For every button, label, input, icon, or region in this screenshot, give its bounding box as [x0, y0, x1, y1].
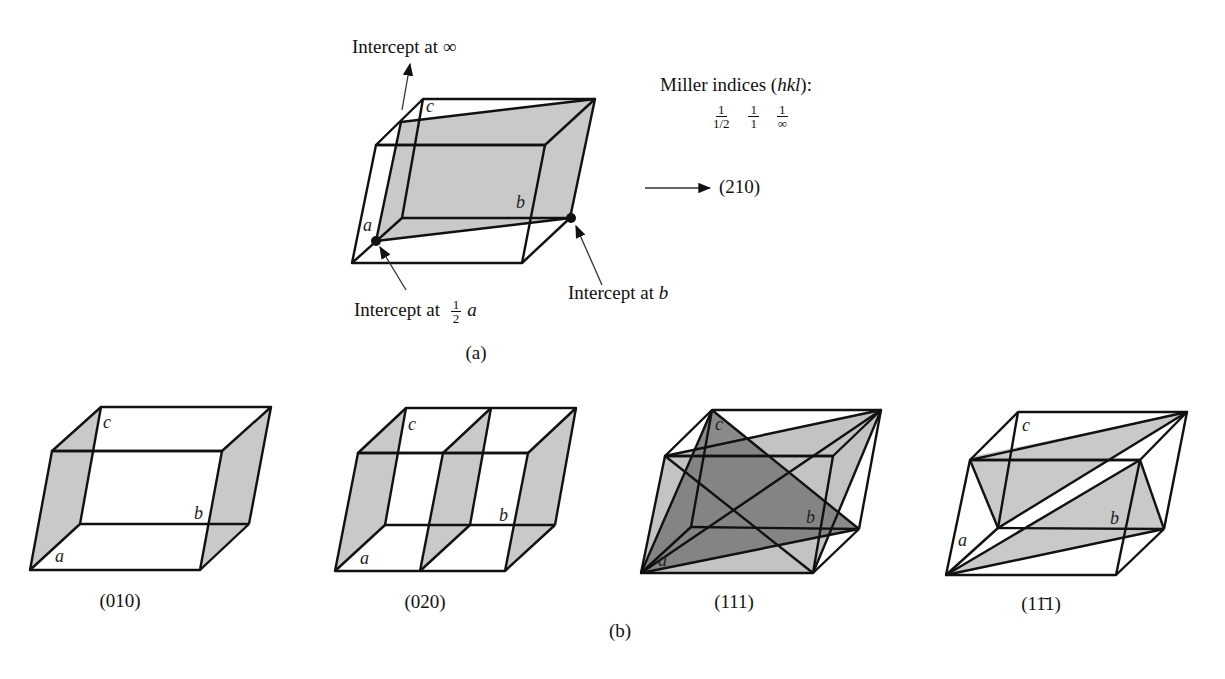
intercept-a-prefix: Intercept at: [354, 299, 440, 320]
intercept-b-axis: b: [659, 282, 669, 303]
cell-020-axis-c: c: [408, 414, 416, 435]
intercept-b-prefix: Intercept at: [568, 282, 654, 303]
unit-cell-020: [335, 408, 576, 571]
cell-11bar1-axis-b: b: [1110, 508, 1119, 529]
unit-cell-11bar1: [946, 412, 1187, 575]
unit-cell-111: [641, 410, 881, 573]
fraction-k-num: 1: [748, 103, 759, 117]
fraction-k-den: 1: [748, 117, 759, 130]
intercept-c-label: Intercept at ∞: [352, 36, 456, 58]
cell-010-axis-b: b: [194, 503, 203, 524]
axis-label-c: c: [426, 96, 434, 117]
fraction-k: 11: [748, 103, 759, 130]
axis-label-b: b: [516, 192, 525, 213]
intercept-a-frac-num: 1: [451, 298, 462, 312]
axis-label-a: a: [363, 215, 372, 236]
miller-title-hkl: hkl: [777, 74, 800, 95]
cell-11bar1-axis-a: a: [958, 530, 967, 551]
fraction-l-num: 1: [777, 103, 788, 117]
intercept-b-label: Intercept at b: [568, 282, 668, 304]
arrow-intercept-a: [380, 247, 406, 290]
miller-title-suffix: ):: [800, 74, 812, 95]
cell-010-caption: (010): [80, 590, 160, 612]
cell-020-caption: (020): [385, 591, 465, 613]
arrow-intercept-c: [402, 64, 410, 110]
miller-result: (210): [719, 176, 760, 198]
intercept-point-a: [371, 236, 381, 246]
figure-a-label: (a): [436, 342, 516, 364]
cell-010-axis-a: a: [55, 546, 64, 567]
fraction-h-num: 1: [716, 103, 727, 117]
intercept-point-b: [566, 213, 576, 223]
cell-020-axis-b: b: [499, 505, 508, 526]
unit-cell-010: [30, 407, 271, 570]
cell-11bar1-axis-c: c: [1022, 415, 1030, 436]
cell-010-axis-c: c: [103, 412, 111, 433]
fraction-l-den: ∞: [776, 117, 789, 130]
cell-111-axis-a: a: [658, 550, 667, 571]
diagram-canvas: [0, 0, 1225, 679]
intercept-a-axis: a: [467, 299, 477, 320]
cell-11bar1-caption: (11̄1): [1001, 593, 1081, 615]
cell-020-axis-a: a: [360, 548, 369, 569]
miller-title-prefix: Miller indices (: [660, 74, 777, 95]
fraction-h: 11/2: [711, 103, 732, 130]
intercept-a-frac-den: 2: [451, 312, 462, 325]
miller-fractions: 11/2 11 1∞: [705, 103, 795, 130]
cell-111-axis-c: c: [715, 414, 723, 435]
intercept-a-label: Intercept at 12a: [354, 298, 477, 325]
cell-111-caption: (111): [694, 591, 774, 613]
arrow-intercept-b: [576, 226, 602, 285]
unit-cell-210: [352, 99, 595, 263]
fraction-h-den: 1/2: [711, 117, 732, 130]
miller-indices-title: Miller indices (hkl):: [660, 74, 812, 96]
figure-b-label: (b): [580, 620, 660, 642]
fraction-l: 1∞: [776, 103, 789, 130]
intercept-a-fraction: 12: [451, 298, 462, 325]
cell-111-axis-b: b: [806, 507, 815, 528]
